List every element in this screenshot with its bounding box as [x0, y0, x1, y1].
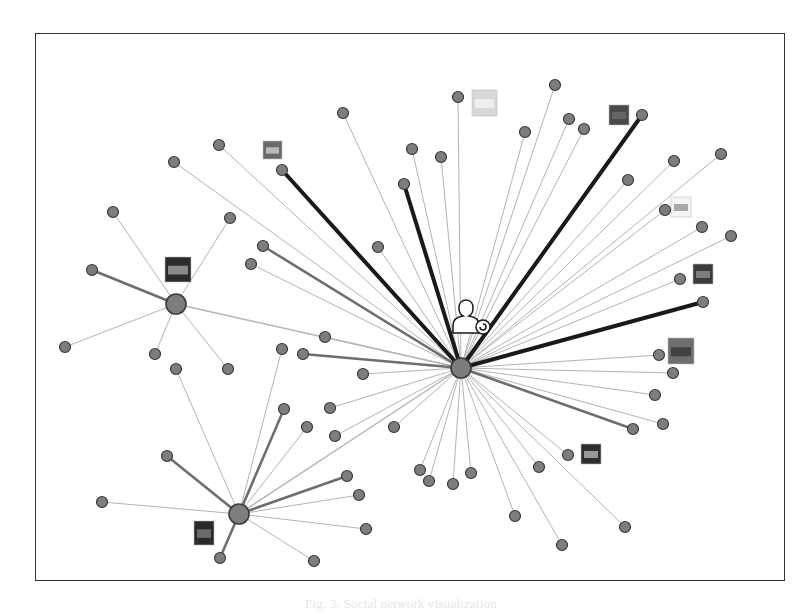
thumb-dog[interactable] — [581, 444, 601, 464]
graph-node[interactable] — [108, 207, 119, 218]
graph-node[interactable] — [298, 349, 309, 360]
network-edge — [167, 456, 239, 514]
network-edge — [461, 210, 665, 368]
hub-left[interactable] — [166, 294, 186, 314]
graph-node[interactable] — [534, 462, 545, 473]
thumb-landscape[interactable] — [165, 257, 191, 282]
graph-node[interactable] — [669, 156, 680, 167]
graph-node[interactable] — [162, 451, 173, 462]
graph-node[interactable] — [279, 404, 290, 415]
network-edge — [325, 337, 461, 368]
hub-lower[interactable] — [229, 504, 249, 524]
graph-node[interactable] — [579, 124, 590, 135]
edges-layer — [65, 85, 731, 561]
thumbnail-image — [197, 529, 211, 537]
graph-node[interactable] — [407, 144, 418, 155]
graph-node[interactable] — [214, 140, 225, 151]
graph-node[interactable] — [325, 403, 336, 414]
graph-node[interactable] — [389, 422, 400, 433]
graph-node[interactable] — [698, 297, 709, 308]
graph-node[interactable] — [169, 157, 180, 168]
network-edge — [263, 246, 461, 368]
graph-node[interactable] — [654, 350, 665, 361]
badge-icon — [476, 320, 490, 334]
graph-node[interactable] — [637, 110, 648, 121]
graph-node[interactable] — [436, 152, 447, 163]
thumb-street[interactable] — [693, 264, 713, 284]
thumb-sun[interactable] — [671, 197, 691, 217]
thumb-dark-photo[interactable] — [609, 105, 629, 125]
network-edge — [343, 113, 461, 368]
graph-node[interactable] — [716, 149, 727, 160]
thumb-figure[interactable] — [194, 521, 214, 545]
thumb-silhouette[interactable] — [472, 90, 497, 116]
graph-node[interactable] — [361, 524, 372, 535]
graph-node[interactable] — [399, 179, 410, 190]
thumbnail-image — [168, 266, 188, 275]
thumbnail-image — [475, 99, 494, 108]
thumb-pin[interactable] — [263, 141, 282, 159]
graph-node[interactable] — [550, 80, 561, 91]
graph-node[interactable] — [650, 390, 661, 401]
graph-node[interactable] — [453, 92, 464, 103]
network-edge — [330, 368, 461, 408]
graph-node[interactable] — [424, 476, 435, 487]
network-edge — [65, 304, 176, 347]
network-edge — [239, 476, 347, 514]
network-edge — [282, 170, 461, 368]
graph-node[interactable] — [330, 431, 341, 442]
graph-node[interactable] — [510, 511, 521, 522]
graph-node[interactable] — [246, 259, 257, 270]
thumbnail-image — [671, 347, 691, 356]
graph-node[interactable] — [520, 127, 531, 138]
graph-node[interactable] — [660, 205, 671, 216]
graph-node[interactable] — [338, 108, 349, 119]
graph-node[interactable] — [564, 114, 575, 125]
thumb-portrait[interactable] — [668, 338, 694, 364]
network-edge — [412, 149, 461, 368]
thumbnail-image — [612, 112, 626, 119]
graph-node[interactable] — [373, 242, 384, 253]
graph-node[interactable] — [258, 241, 269, 252]
network-edge — [174, 162, 461, 368]
graph-node[interactable] — [60, 342, 71, 353]
graph-node[interactable] — [342, 471, 353, 482]
network-edge — [363, 368, 461, 374]
graph-node[interactable] — [87, 265, 98, 276]
graph-node[interactable] — [675, 274, 686, 285]
graph-node[interactable] — [448, 479, 459, 490]
graph-node[interactable] — [466, 468, 477, 479]
network-edge — [429, 368, 461, 481]
graph-node[interactable] — [628, 424, 639, 435]
graph-node[interactable] — [668, 368, 679, 379]
thumbnail-image — [696, 271, 710, 278]
graph-node[interactable] — [171, 364, 182, 375]
graph-node[interactable] — [277, 165, 288, 176]
graph-node[interactable] — [309, 556, 320, 567]
graph-node[interactable] — [302, 422, 313, 433]
graph-node[interactable] — [354, 490, 365, 501]
graph-node[interactable] — [320, 332, 331, 343]
graph-node[interactable] — [97, 497, 108, 508]
network-edge — [102, 502, 239, 514]
network-edge — [461, 368, 633, 429]
graph-node[interactable] — [620, 522, 631, 533]
network-edge — [461, 368, 663, 424]
graph-node[interactable] — [726, 231, 737, 242]
thumbnail-image — [266, 147, 279, 153]
graph-node[interactable] — [150, 349, 161, 360]
graph-node[interactable] — [697, 222, 708, 233]
graph-node[interactable] — [225, 213, 236, 224]
graph-node[interactable] — [563, 450, 574, 461]
graph-node[interactable] — [223, 364, 234, 375]
graph-node[interactable] — [358, 369, 369, 380]
graph-node[interactable] — [658, 419, 669, 430]
figure-caption: Fig. 3. Social network visualization — [0, 596, 802, 612]
hub-center[interactable] — [451, 358, 471, 378]
graph-node[interactable] — [277, 344, 288, 355]
graph-node[interactable] — [415, 465, 426, 476]
graph-node[interactable] — [215, 553, 226, 564]
graph-node[interactable] — [557, 540, 568, 551]
network-edge — [461, 302, 703, 368]
graph-node[interactable] — [623, 175, 634, 186]
